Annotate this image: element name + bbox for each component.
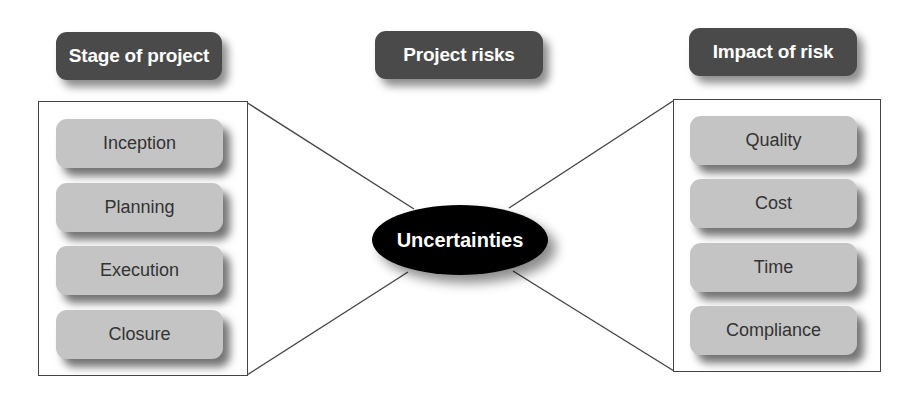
connector-right-top — [509, 101, 673, 208]
stage-item-execution: Execution — [56, 246, 223, 295]
connector-left-top — [246, 102, 414, 209]
impact-item-compliance: Compliance — [690, 306, 857, 355]
connector-left-bottom — [247, 272, 408, 375]
header-impact-of-risk: Impact of risk — [689, 28, 857, 76]
header-stage-of-project: Stage of project — [56, 32, 222, 80]
impact-item-quality: Quality — [690, 116, 857, 165]
stage-item-closure: Closure — [56, 310, 223, 359]
center-node-uncertainties: Uncertainties — [372, 205, 548, 275]
header-project-risks: Project risks — [375, 31, 543, 79]
stage-item-planning: Planning — [56, 183, 223, 232]
project-risks-diagram: Stage of project Project risks Impact of… — [0, 0, 923, 394]
impact-item-time: Time — [690, 243, 857, 292]
impact-item-cost: Cost — [690, 179, 857, 228]
stage-item-inception: Inception — [56, 119, 223, 168]
connector-right-bottom — [513, 271, 674, 371]
